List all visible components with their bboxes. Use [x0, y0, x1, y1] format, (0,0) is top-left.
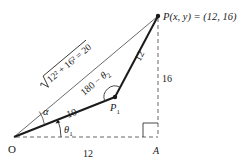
right-angle-marker [143, 123, 158, 137]
label-p-text: P(x, y) = (12, 16) [162, 11, 237, 23]
label-o-p1-length: 10 [65, 106, 78, 120]
label-ap-length: 16 [162, 73, 172, 84]
label-p: P(x, y) = (12, 16) [162, 11, 237, 23]
label-o: O [8, 143, 16, 155]
label-oa-length: 12 [83, 148, 93, 159]
svg-text:12² + 16² = 20: 12² + 16² = 20 [45, 42, 93, 85]
label-theta1: θ1 [64, 124, 73, 138]
label-p1: P1 [109, 102, 120, 116]
arm-geometry-diagram: O A P(x, y) = (12, 16) P1 12 16 10 12 12… [0, 0, 248, 163]
segment-op [14, 16, 158, 137]
endpoint-p [156, 14, 160, 18]
joint-p1 [113, 95, 117, 99]
label-180-minus-theta2: 180 − θ2 [78, 67, 113, 100]
label-a: A [152, 145, 160, 156]
label-alpha: α [43, 106, 49, 117]
